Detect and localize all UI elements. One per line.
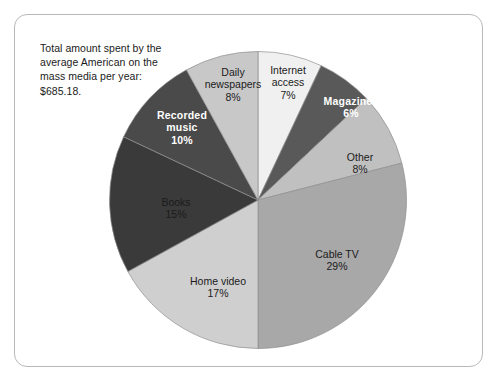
figure-frame: Total amount spent by the average Americ…	[14, 14, 483, 367]
pie-slice-group	[109, 52, 406, 349]
pie-chart-svg	[109, 51, 407, 349]
pie-chart: Internetaccess7%Magazines6%Other8%Cable …	[109, 51, 407, 349]
